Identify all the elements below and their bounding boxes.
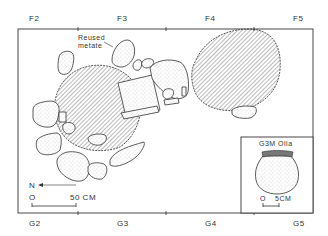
grid-label-f2: F2 xyxy=(29,14,39,23)
grid-label-g3: G3 xyxy=(117,219,129,228)
olla-title: G3M Olla xyxy=(259,140,293,147)
reused-metate-label-line1: Reused xyxy=(78,34,105,41)
north-arrow xyxy=(38,183,76,187)
olla-vessel xyxy=(255,156,298,194)
grid-label-g4: G4 xyxy=(205,219,217,228)
scale-end-label: 50 CM xyxy=(70,193,96,202)
olla-scale-end: 5CM xyxy=(275,195,291,202)
olla-scale-start: O xyxy=(260,195,266,202)
metate-leader-line xyxy=(104,42,113,47)
north-label: N xyxy=(29,181,35,190)
scale-start-label: O xyxy=(29,193,36,202)
grid-label-f3: F3 xyxy=(117,14,127,23)
reused-metate-label-line2: metate xyxy=(78,42,102,49)
grid-label-g5: G5 xyxy=(293,219,305,228)
grid-label-f4: F4 xyxy=(205,14,215,23)
grid-label-g2: G2 xyxy=(29,219,41,228)
scale-bar xyxy=(32,203,76,207)
right-hatched-feature xyxy=(192,29,281,111)
grid-label-f5: F5 xyxy=(293,14,303,23)
